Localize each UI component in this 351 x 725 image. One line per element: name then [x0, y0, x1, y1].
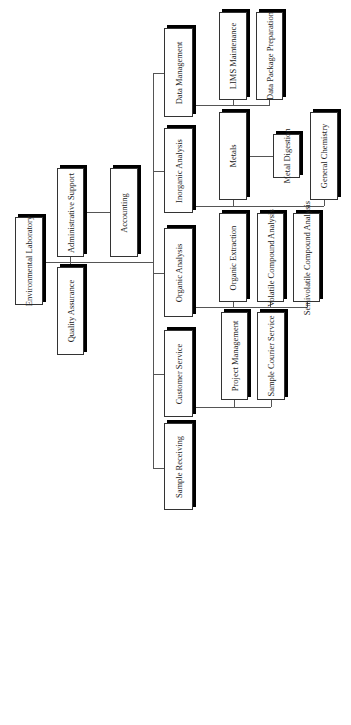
node-metals: Metals	[219, 112, 247, 200]
connector	[70, 257, 71, 267]
node-label: Inorganic Analysis	[174, 139, 184, 203]
node-label: Administrative Support	[66, 172, 76, 252]
node-label: Organic Extraction	[228, 225, 238, 290]
node-label: Customer Service	[174, 343, 184, 404]
connector	[269, 100, 270, 105]
connector	[153, 468, 164, 469]
connector	[193, 407, 271, 408]
node-label: Sample Receiving	[174, 435, 184, 497]
node-lims-maintenance: LIMS Maintenance	[219, 12, 247, 100]
connector	[153, 73, 154, 469]
node-label: Organic Analysis	[174, 243, 184, 302]
node-label: Quality Assurance	[66, 280, 76, 343]
node-label: Project Management	[230, 321, 240, 392]
node-sample-courier-service: Sample Courier Service	[257, 312, 285, 400]
connector	[247, 156, 273, 157]
node-general-chemistry: General Chemistry	[310, 112, 338, 200]
node-accounting: Accounting	[110, 168, 138, 257]
node-organic-analysis: Organic Analysis	[164, 228, 193, 317]
connector	[43, 262, 153, 263]
connector	[233, 200, 234, 206]
node-sample-receiving: Sample Receiving	[164, 423, 193, 510]
connector	[153, 171, 164, 172]
node-label: Data Management	[174, 41, 184, 104]
node-inorganic-analysis: Inorganic Analysis	[164, 128, 193, 213]
node-volatile-compound-analysis: Volatile Compound Analysis	[257, 213, 284, 302]
node-administrative-support: Administrative Support	[57, 168, 84, 257]
node-label: Sample Courier Service	[266, 315, 276, 396]
node-metal-digestion: Metal Digestion	[273, 134, 300, 178]
node-data-management: Data Management	[164, 28, 193, 117]
node-project-management: Project Management	[221, 312, 248, 400]
node-label: LIMS Maintenance	[228, 23, 238, 89]
node-semivolatile-compound-analysis: Semivolatile Compound Analysis	[293, 213, 320, 302]
connector	[233, 302, 234, 307]
connector	[324, 200, 325, 206]
connector	[193, 307, 307, 308]
connector	[153, 73, 164, 74]
node-label: Volatile Compound Analysis	[266, 209, 276, 307]
connector	[84, 212, 110, 213]
connector	[271, 400, 272, 407]
connector	[233, 100, 234, 105]
node-label: Environmental Laboratory	[24, 216, 34, 306]
connector	[193, 105, 270, 106]
node-label: Semivolatile Compound Analysis	[302, 200, 312, 314]
node-label: Metal Digestion	[282, 128, 292, 183]
node-label: General Chemistry	[319, 124, 329, 188]
connector	[153, 273, 164, 274]
connector	[234, 400, 235, 407]
node-label: Data Package Preparation	[265, 12, 275, 100]
node-organic-extraction: Organic Extraction	[219, 213, 247, 302]
node-environmental-laboratory: Environmental Laboratory	[15, 217, 43, 305]
node-label: Accounting	[119, 193, 129, 233]
node-label: Metals	[228, 144, 238, 167]
node-quality-assurance: Quality Assurance	[57, 267, 84, 355]
node-data-package-preparation: Data Package Preparation	[256, 12, 283, 100]
connector	[153, 374, 164, 375]
node-customer-service: Customer Service	[164, 330, 193, 417]
